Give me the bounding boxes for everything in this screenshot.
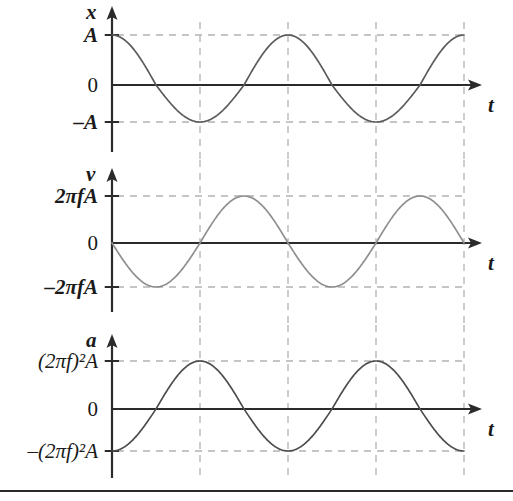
tick-label-acceleration-max: (2πf)²A <box>2 351 98 372</box>
curve-velocity <box>112 196 464 287</box>
panel-velocity <box>104 168 482 312</box>
tick-label-displacement-min: –A <box>48 112 98 133</box>
shm-figure: x A 0 –A t v 2πfA 0 –2πfA t a (2πf)²A 0 … <box>0 0 513 501</box>
tick-label-velocity-max: 2πfA <box>20 186 98 207</box>
tick-label-displacement-max: A <box>58 25 98 46</box>
tick-label-displacement-zero: 0 <box>58 75 98 96</box>
y-axis-label-velocity: v <box>86 164 95 185</box>
tick-label-acceleration-zero: 0 <box>58 399 98 420</box>
bottom-divider <box>0 490 513 492</box>
panel-displacement <box>104 6 482 152</box>
t-axis-label-displacement: t <box>488 95 494 116</box>
panel-acceleration <box>104 334 482 478</box>
t-axis-label-velocity: t <box>488 253 494 274</box>
tick-label-velocity-zero: 0 <box>58 233 98 254</box>
y-axis-label-displacement: x <box>86 2 97 23</box>
tick-label-acceleration-min: –(2πf)²A <box>0 441 98 462</box>
tick-label-velocity-min: –2πfA <box>8 277 98 298</box>
t-axis-label-acceleration: t <box>488 419 494 440</box>
